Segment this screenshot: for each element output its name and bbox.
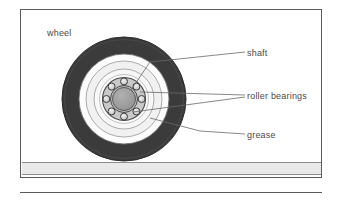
roller-bearing-ball: [103, 96, 110, 103]
label-shaft: shaft: [247, 48, 268, 58]
roller-bearing-ball: [138, 96, 145, 103]
roller-bearing-ball: [108, 83, 115, 90]
label-wheel: wheel: [47, 28, 72, 38]
label-roller-bearings: roller bearings: [247, 91, 307, 101]
caption-rule: [20, 192, 322, 193]
label-grease: grease: [247, 130, 276, 140]
roller-bearing-ball: [121, 113, 128, 120]
diagram-page: wheel shaft roller bearings grease: [0, 0, 338, 201]
roller-bearing-ball: [121, 78, 128, 85]
shaft-core: [113, 88, 136, 111]
roller-bearing-ball: [108, 108, 115, 115]
roller-bearing-ball: [133, 83, 140, 90]
